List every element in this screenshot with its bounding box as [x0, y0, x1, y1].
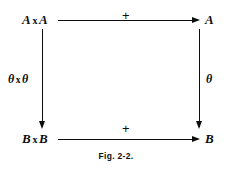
arrow-line-top	[58, 20, 198, 21]
theta-second: θ	[22, 72, 28, 86]
node-b: B	[205, 132, 214, 145]
edge-label-right-theta: θ	[206, 73, 212, 85]
times-operator-icon: x	[14, 75, 22, 85]
edge-label-left-theta-times-theta: θxθ	[8, 73, 28, 86]
times-operator-icon: x	[31, 15, 39, 26]
node-b-times-b-first: B	[22, 131, 31, 146]
node-b-times-b: BxB	[22, 132, 48, 146]
arrowhead-down-right-icon	[196, 121, 202, 129]
figure-caption: Fig. 2-2.	[0, 151, 232, 161]
arrowhead-right-top-icon	[192, 17, 200, 23]
arrow-line-bottom	[58, 139, 198, 140]
arrow-line-right	[199, 29, 200, 127]
arrowhead-right-bottom-icon	[192, 136, 200, 142]
node-a: A	[205, 13, 214, 26]
node-a-times-a-second: A	[39, 12, 48, 27]
node-a-times-a: AxA	[22, 13, 48, 27]
arrowhead-down-left-icon	[39, 121, 45, 129]
node-b-times-b-second: B	[39, 131, 48, 146]
commutative-diagram-figure: AxA A BxB B + + θxθ θ Fig. 2-2.	[0, 0, 232, 170]
node-a-times-a-first: A	[22, 12, 31, 27]
arrow-line-left	[42, 29, 43, 127]
times-operator-icon: x	[31, 134, 39, 145]
edge-label-bottom-plus: +	[122, 122, 130, 135]
